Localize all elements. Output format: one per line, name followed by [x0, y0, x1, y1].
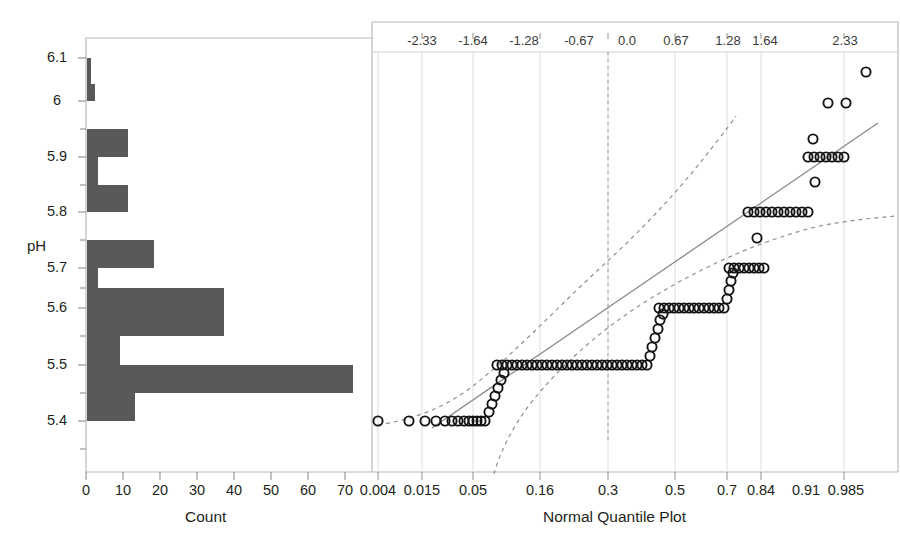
right-panel-gridlines: [378, 52, 844, 472]
histogram-bar: [87, 336, 120, 365]
histogram-bar: [87, 185, 128, 212]
x-axis-title: Count: [185, 508, 226, 526]
data-point: [810, 177, 819, 186]
histogram-bar: [87, 240, 154, 268]
data-point: [404, 416, 413, 425]
y-tick-label: 5.7: [40, 259, 74, 275]
top-tick-label: 2.33: [824, 33, 866, 48]
top-tick-label: 1.64: [744, 33, 786, 48]
data-point: [650, 333, 659, 342]
left-panel-x-ticks: [86, 472, 345, 480]
right-panel-bottom-ticks: [378, 472, 844, 480]
x-tick-label: 40: [219, 482, 249, 498]
right-panel-x-axis-title: Normal Quantile Plot: [543, 508, 686, 526]
x-tick-label: 0: [71, 482, 101, 498]
bottom-tick-label: 0.3: [589, 482, 627, 498]
quantile-plot-points: [373, 67, 870, 425]
top-tick-label: -2.33: [399, 33, 445, 48]
histogram-bars: [87, 58, 353, 421]
histogram-bar: [87, 268, 98, 288]
normal-reference-line: [432, 123, 878, 428]
bottom-tick-label: 0.16: [517, 482, 563, 498]
histogram-bar: [87, 157, 98, 185]
histogram-bar: [87, 393, 135, 421]
right-panel-frame: [372, 22, 898, 472]
bottom-tick-label: 0.004: [354, 482, 402, 498]
top-tick-label: 0.67: [655, 33, 697, 48]
histogram-bar: [87, 365, 353, 393]
top-tick-label: -1.28: [501, 33, 547, 48]
bottom-tick-label: 0.84: [738, 482, 784, 498]
y-tick-label: 5.5: [40, 356, 74, 372]
data-point: [724, 285, 733, 294]
data-point: [823, 98, 832, 107]
data-point: [861, 67, 870, 76]
data-point: [645, 351, 654, 360]
x-tick-label: 30: [182, 482, 212, 498]
data-point: [808, 134, 817, 143]
data-point: [647, 342, 656, 351]
left-panel-y-ticks: [78, 58, 86, 449]
y-tick-label: 6: [40, 92, 74, 108]
x-tick-label: 50: [256, 482, 286, 498]
histogram-bar: [87, 129, 128, 157]
y-tick-label: 5.8: [40, 203, 74, 219]
y-axis-title: pH: [27, 237, 46, 254]
histogram-bar: [87, 288, 224, 336]
histogram-bar: [87, 58, 91, 84]
top-tick-label: -0.67: [556, 33, 602, 48]
data-point: [841, 98, 850, 107]
x-tick-label: 20: [145, 482, 175, 498]
bottom-tick-label: 0.05: [450, 482, 496, 498]
bottom-tick-label: 0.985: [820, 482, 872, 498]
top-tick-label: -1.64: [450, 33, 496, 48]
top-tick-label: 0.0: [609, 33, 645, 48]
y-tick-label: 6.1: [40, 49, 74, 65]
confidence-band-upper: [378, 116, 736, 425]
histogram-bar: [87, 84, 95, 101]
figure-canvas: [0, 0, 900, 548]
y-tick-label: 5.6: [40, 299, 74, 315]
y-tick-label: 5.9: [40, 148, 74, 164]
data-point: [653, 324, 662, 333]
data-point: [803, 207, 812, 216]
data-point: [431, 416, 440, 425]
bottom-tick-label: 0.5: [656, 482, 694, 498]
figure-root: pH 6.1 6 5.9 5.8 5.7 5.6 5.5 5.4 0 10 20…: [0, 0, 900, 548]
y-tick-label: 5.4: [40, 412, 74, 428]
x-tick-label: 10: [108, 482, 138, 498]
bottom-tick-label: 0.015: [398, 482, 446, 498]
top-tick-label: 1.28: [707, 33, 749, 48]
data-point: [752, 233, 761, 242]
x-tick-label: 60: [293, 482, 323, 498]
